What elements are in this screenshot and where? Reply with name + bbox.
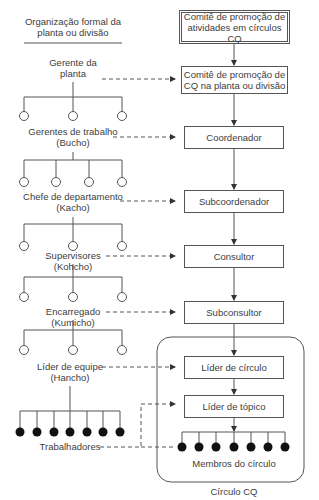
box-line1: Comitê de promoção de xyxy=(182,11,287,22)
box-subcoordenador: Subcoordenador xyxy=(184,190,284,213)
box-label: Consultor xyxy=(214,251,255,262)
label-line2: planta xyxy=(23,68,123,79)
box-comite-atividades: Comitê de promoção de atividades em círc… xyxy=(181,12,288,42)
box-consultor: Consultor xyxy=(184,245,284,268)
box-lider-topico: Líder de tópico xyxy=(184,395,284,418)
box-label: Líder de tópico xyxy=(203,401,266,412)
box-label: Subconsultor xyxy=(206,307,261,318)
worker-nodes xyxy=(16,428,125,437)
label-trabalhadores: Trabalhadores xyxy=(30,441,110,452)
label-line1: Supervisores xyxy=(23,250,123,261)
members-label: Membros do círculo xyxy=(179,458,289,469)
box-line2: atividades em círculos CQ xyxy=(182,22,287,44)
box-comite-planta: Comitê de promoção de CQ na planta ou di… xyxy=(181,66,288,94)
label-line1: Trabalhadores xyxy=(30,441,110,452)
label-line2: (Kumicho) xyxy=(23,317,123,328)
box-coordenador: Coordenador xyxy=(184,126,284,149)
box-subconsultor: Subconsultor xyxy=(184,301,284,324)
circle-cq-caption: Círculo CQ xyxy=(189,486,279,497)
left-header-line1: Organização formal da xyxy=(14,16,132,27)
label-chefe-departamento: Chefe de departamento (Kacho) xyxy=(13,191,133,213)
label-line1: Gerentes de trabalho xyxy=(13,126,133,137)
label-line1: Gerente da xyxy=(23,57,123,68)
label-line2: (Bucho) xyxy=(13,137,133,148)
box-label: Coordenador xyxy=(206,132,261,143)
label-gerente-planta: Gerente da planta xyxy=(23,57,123,79)
box-line2: CQ na planta ou divisão xyxy=(184,80,285,91)
label-encarregado: Encarregado (Kumicho) xyxy=(23,306,123,328)
label-line1: Líder de equipe xyxy=(20,361,120,372)
label-line2: (Kacho) xyxy=(13,202,133,213)
label-line1: Encarregado xyxy=(23,306,123,317)
left-header: Organização formal da planta ou divisão xyxy=(14,16,132,38)
box-line1: Comitê de promoção de xyxy=(184,69,285,80)
label-line2: (Hancho) xyxy=(20,372,120,383)
label-line1: Chefe de departamento xyxy=(13,191,133,202)
box-lider-circulo: Líder de círculo xyxy=(184,356,284,379)
label-lider-equipe: Líder de equipe (Hancho) xyxy=(20,361,120,383)
left-header-line2: planta ou divisão xyxy=(14,27,132,38)
box-label: Subcoordenador xyxy=(199,196,269,207)
label-supervisores: Supervisores (Kohcho) xyxy=(23,250,123,272)
box-label: Líder de círculo xyxy=(201,362,266,373)
member-nodes xyxy=(178,443,290,452)
label-gerentes-trabalho: Gerentes de trabalho (Bucho) xyxy=(13,126,133,148)
label-line2: (Kohcho) xyxy=(23,261,123,272)
